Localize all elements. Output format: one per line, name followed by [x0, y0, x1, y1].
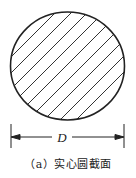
dimension-label: D: [56, 130, 67, 145]
arrow-right-icon: [115, 135, 124, 140]
dimension-line: [11, 124, 124, 148]
circular-section-diagram: D: [0, 0, 136, 178]
hatch-lines: [0, 0, 136, 140]
figure-caption: （a）实心圆截面: [0, 155, 136, 171]
arrow-left-icon: [11, 135, 20, 140]
circle-outline: [11, 12, 125, 120]
